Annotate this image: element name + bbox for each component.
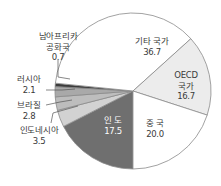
label-name: 남아프리카 (28, 31, 88, 42)
label-name: OECD (168, 70, 204, 81)
label-brazil: 브라질 2.8 (12, 100, 46, 121)
label-name: 인 도 (96, 115, 130, 126)
label-value: 20.0 (138, 129, 172, 140)
label-value: 16.7 (168, 91, 204, 102)
label-value: 2.8 (12, 111, 46, 122)
label-value: 0.7 (28, 52, 88, 63)
label-russia: 러시아 2.1 (12, 74, 46, 95)
leader-brazil (46, 100, 72, 105)
label-value: 2.1 (12, 85, 46, 96)
label-name: 공화국 (28, 42, 88, 53)
label-oecd: OECD 국가 16.7 (168, 70, 204, 102)
leader-south-africa (58, 60, 70, 79)
label-name: 브라질 (12, 100, 46, 111)
label-name: 기타 국가 (127, 36, 177, 47)
label-value: 17.5 (96, 126, 130, 137)
label-south-africa: 남아프리카 공화국 0.7 (28, 31, 88, 63)
label-value: 3.5 (14, 136, 64, 147)
leader-russia (46, 89, 75, 90)
label-name: 국가 (168, 81, 204, 92)
leader-indonesia (51, 106, 78, 123)
label-name: 러시아 (12, 74, 46, 85)
label-india: 인 도 17.5 (96, 115, 130, 136)
label-china: 중 국 20.0 (138, 118, 172, 139)
label-name: 인도네시아 (14, 125, 64, 136)
label-indonesia: 인도네시아 3.5 (14, 125, 64, 146)
label-other: 기타 국가 36.7 (127, 36, 177, 57)
label-value: 36.7 (127, 47, 177, 58)
label-name: 중 국 (138, 118, 172, 129)
